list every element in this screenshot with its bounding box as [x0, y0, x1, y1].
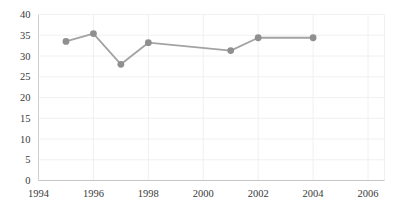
- line-chart: 0510152025303540199419961998200020022004…: [0, 0, 395, 211]
- data-point-1997: [117, 61, 124, 68]
- x-tick-label: 2000: [193, 188, 214, 199]
- y-tick-label: 20: [20, 92, 31, 103]
- data-point-1995: [63, 38, 70, 45]
- y-tick-label: 30: [20, 51, 31, 62]
- y-tick-label: 35: [20, 30, 31, 41]
- x-tick-label: 1998: [138, 188, 159, 199]
- y-tick-label: 5: [25, 154, 30, 165]
- data-point-2002: [255, 34, 262, 41]
- data-point-1996: [90, 30, 97, 37]
- line-chart-figure: 0510152025303540199419961998200020022004…: [0, 0, 395, 211]
- x-tick-label: 2006: [358, 188, 379, 199]
- y-tick-label: 40: [20, 9, 31, 20]
- x-tick-label: 1996: [83, 188, 104, 199]
- data-point-2001: [227, 47, 234, 54]
- x-tick-label: 2002: [248, 188, 269, 199]
- y-tick-label: 25: [20, 71, 31, 82]
- x-tick-label: 2004: [303, 188, 325, 199]
- data-point-2004: [310, 34, 317, 41]
- y-tick-label: 15: [20, 113, 31, 124]
- x-tick-label: 1994: [28, 188, 50, 199]
- y-tick-label: 0: [25, 175, 30, 186]
- data-point-1998: [145, 39, 152, 46]
- y-tick-label: 10: [20, 134, 31, 145]
- data-line: [66, 34, 313, 65]
